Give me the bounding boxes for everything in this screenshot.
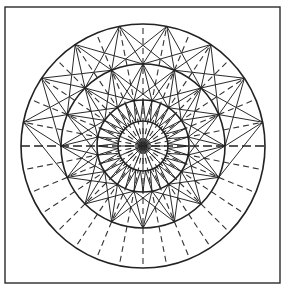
rosette-diagram [0, 0, 285, 289]
